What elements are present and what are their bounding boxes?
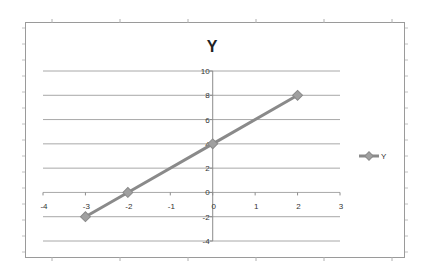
x-tick-label: 1 (254, 202, 259, 211)
y-tick-label: -2 (203, 213, 211, 222)
chart-title: Y (207, 38, 218, 55)
chart-frame (26, 23, 405, 258)
legend-label-y: Y (381, 152, 387, 161)
y-tick-label: 6 (205, 116, 210, 125)
x-tick-label: -4 (40, 202, 48, 211)
x-tick-label: 0 (211, 202, 216, 211)
y-tick-label: 2 (205, 164, 210, 173)
x-tick-label: -3 (83, 202, 91, 211)
x-tick-label: -2 (125, 202, 133, 211)
y-tick-label: -4 (203, 237, 211, 246)
scatter-chart: Y -4-20246810 -4-3-2-10123 Y (0, 0, 430, 273)
y-tick-label: 8 (205, 91, 210, 100)
y-tick-label: 10 (201, 67, 210, 76)
chart-container: Y -4-20246810 -4-3-2-10123 Y (0, 0, 430, 273)
y-tick-label: 0 (205, 188, 210, 197)
x-tick-label: -1 (168, 202, 176, 211)
x-tick-label: 3 (339, 202, 344, 211)
x-tick-label: 2 (296, 202, 301, 211)
